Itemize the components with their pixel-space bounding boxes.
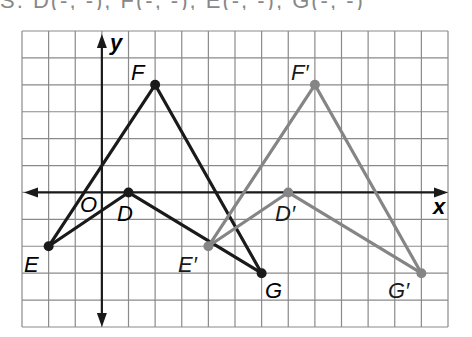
- label-E-prime: E′: [178, 252, 198, 277]
- vertex-point-D: [124, 187, 134, 197]
- y-axis-label: y: [109, 30, 124, 55]
- y-axis-arrow-up-icon: [97, 34, 107, 48]
- vertex-point-G: [257, 268, 267, 278]
- label-F-prime: F′: [291, 60, 309, 85]
- label-E: E: [24, 252, 39, 277]
- vertex-point-E: [44, 241, 54, 251]
- axes: x y O: [24, 30, 448, 327]
- vertex-point-F: [150, 80, 160, 90]
- vertex-labels: F D E G F′ D′ E′ G′: [24, 60, 410, 303]
- vertex-point-E′: [203, 241, 213, 251]
- grid: [22, 31, 448, 327]
- label-F: F: [131, 60, 146, 85]
- vertex-point-D′: [283, 187, 293, 197]
- y-axis-arrow-down-icon: [97, 313, 107, 327]
- label-G-prime: G′: [388, 278, 410, 303]
- x-axis-label: x: [432, 194, 446, 219]
- vertex-point-F′: [310, 80, 320, 90]
- coordinate-plane: x y O F D E G F′ D′ E′ G′: [0, 0, 472, 337]
- vertex-point-G′: [416, 268, 426, 278]
- x-axis-arrow-left-icon: [24, 187, 38, 197]
- segment-D′G′: [288, 192, 421, 273]
- label-D-prime: D′: [275, 201, 296, 226]
- label-D: D: [117, 201, 133, 226]
- label-G: G: [265, 278, 282, 303]
